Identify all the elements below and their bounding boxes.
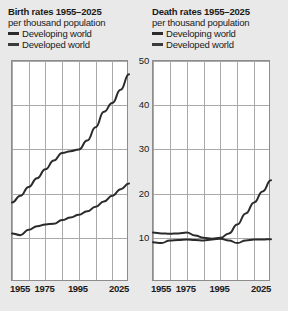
- panel-birth-rates: Birth rates 1955–2025 per thousand popul…: [0, 0, 144, 311]
- panel-death-rates: Death rates 1955–2025 per thousand popul…: [144, 0, 288, 311]
- y-axis-tick-label: 30: [139, 144, 149, 153]
- x-axis-tick-label: 2025: [109, 283, 129, 294]
- legend-swatch-developed-icon: [8, 43, 19, 46]
- birth-rates-title: Birth rates 1955–2025: [8, 6, 144, 17]
- legend-label-developing: Developing world: [22, 28, 92, 39]
- legend-label-developed: Developed world: [22, 39, 90, 50]
- x-axis-tick-label: 1955: [10, 283, 30, 294]
- legend-item-developing-death: Developing world: [152, 28, 288, 39]
- x-axis-tick-label: 1975: [34, 283, 54, 294]
- legend-swatch-developed-icon: [152, 43, 163, 46]
- legend-swatch-developing-icon: [8, 32, 19, 35]
- series-line-developing-world: [153, 180, 271, 238]
- x-axis-tick-label: 2025: [251, 283, 271, 294]
- legend-label-developed: Developed world: [166, 39, 234, 50]
- x-axis-tick-label: 1955: [151, 283, 171, 294]
- y-axis-tick-label: 20: [139, 189, 149, 198]
- legend-item-developing-birth: Developing world: [8, 28, 144, 39]
- x-axis-tick-label: 1995: [68, 283, 88, 294]
- chart-figure: Birth rates 1955–2025 per thousand popul…: [0, 0, 288, 311]
- series-svg: [12, 61, 129, 282]
- death-rates-series-layer: [153, 61, 269, 280]
- series-line-developed-world: [153, 239, 271, 243]
- birth-rates-x-axis-labels: 1955197519952025: [11, 283, 128, 297]
- death-rates-plot-area: [152, 60, 270, 281]
- death-rates-x-axis-labels: 1955197519952025: [152, 283, 270, 297]
- death-rates-title: Death rates 1955–2025: [152, 6, 288, 17]
- legend-item-developed-death: Developed world: [152, 39, 288, 50]
- x-axis-tick-label: 1995: [209, 283, 229, 294]
- birth-rates-header: Birth rates 1955–2025 per thousand popul…: [8, 6, 144, 50]
- legend-item-developed-birth: Developed world: [8, 39, 144, 50]
- legend-label-developing: Developing world: [166, 28, 236, 39]
- series-svg: [153, 61, 271, 282]
- series-line-developed-world: [12, 183, 129, 235]
- birth-rates-subtitle: per thousand population: [8, 17, 144, 28]
- y-axis-tick-label: 40: [139, 100, 149, 109]
- y-axis-tick-label: 50: [139, 56, 149, 65]
- y-axis-labels: 5040302010: [133, 52, 149, 292]
- birth-rates-plot-area: [11, 60, 128, 281]
- series-line-developing-world: [12, 74, 129, 202]
- death-rates-header: Death rates 1955–2025 per thousand popul…: [152, 6, 288, 50]
- legend-swatch-developing-icon: [152, 32, 163, 35]
- y-axis-tick-label: 10: [139, 233, 149, 242]
- x-axis-tick-label: 1975: [176, 283, 196, 294]
- birth-rates-series-layer: [12, 61, 127, 280]
- death-rates-subtitle: per thousand population: [152, 17, 288, 28]
